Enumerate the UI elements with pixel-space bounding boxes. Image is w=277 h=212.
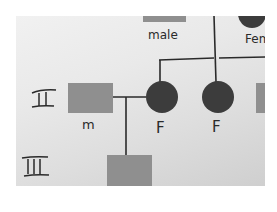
pedigree-diagram [16,16,265,186]
numeral-iii-bottom-stroke [24,175,49,176]
numeral-ii-bottom-stroke [32,106,54,107]
gen-ii-female-2-label: F [212,120,221,135]
gen-ii-partial-square [256,83,265,113]
numeral-iii-top-stroke [22,157,48,158]
gen-iii-male-square [107,155,152,186]
gen-ii-female-2-circle [202,81,234,113]
gen-ii-female-1-label: F [156,121,165,136]
legend-female-label: Fem [245,33,265,45]
generation-numeral-ii: II [30,90,31,91]
descent-line-gen-i [214,16,216,82]
legend-female-circle [238,16,265,28]
gen-ii-male-label: m [82,118,95,131]
gen-ii-female-1-circle [146,81,178,113]
legend-male-label: male [148,29,178,41]
generation-numeral-iii: III [22,157,23,158]
sibship-line-left [159,58,214,60]
sibship-line-right [219,57,265,58]
legend-male-square [143,16,186,22]
numeral-ii-top-stroke [32,90,56,93]
pedigree-photo: male Fem m F F II III [16,16,265,186]
gen-ii-male-square [68,83,113,113]
